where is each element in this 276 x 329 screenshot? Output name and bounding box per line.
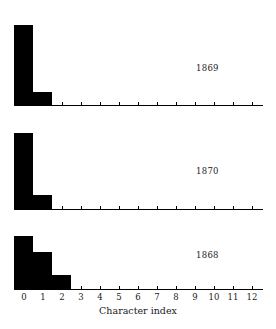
x-axis-tick [24,102,25,106]
histogram-figure: 1869 1870 1868 0123456789101112 Characte… [0,0,276,329]
x-axis-tick [43,102,44,106]
x-axis-tick [214,102,215,106]
x-axis-tick-label: 1 [40,292,45,302]
x-axis-title: Character index [0,305,276,316]
panel-year-label-1870: 1870 [196,166,219,176]
plot-area-1868 [0,214,276,290]
x-axis-tick [24,206,25,210]
bar [14,25,33,105]
bar [14,236,33,289]
panel-year-label-1868: 1868 [196,250,219,260]
x-axis-tick [176,286,177,290]
x-axis-tick [62,286,63,290]
x-axis-tick [157,206,158,210]
x-axis-tick [138,286,139,290]
x-axis-tick [100,286,101,290]
x-axis-tick-label: 9 [192,292,197,302]
x-axis-tick [176,206,177,210]
x-axis-tick [43,206,44,210]
x-axis-tick [252,102,253,106]
x-axis-tick [157,286,158,290]
x-axis-tick [252,206,253,210]
x-axis-tick-label: 10 [209,292,220,302]
x-axis-tick [119,206,120,210]
x-axis-tick [81,102,82,106]
x-axis-tick [233,206,234,210]
x-axis-tick [252,286,253,290]
x-axis-tick-labels: 0123456789101112 [0,292,276,306]
x-axis-tick [157,102,158,106]
x-axis-tick [62,102,63,106]
panel-year-label-1869: 1869 [196,63,219,73]
x-axis-tick [24,286,25,290]
x-axis-tick-label: 6 [135,292,140,302]
x-axis-tick-label: 0 [21,292,26,302]
x-axis-tick [81,206,82,210]
x-axis-tick [138,102,139,106]
x-axis-tick [81,286,82,290]
x-axis-tick [138,206,139,210]
bar [14,133,33,209]
plot-area-1869 [0,0,276,110]
x-axis-tick [195,206,196,210]
x-axis-tick [119,286,120,290]
x-axis-tick-label: 5 [116,292,121,302]
bar [33,252,52,289]
x-axis-tick-label: 7 [154,292,159,302]
plot-area-1870 [0,110,276,214]
x-axis-tick [214,206,215,210]
x-axis-tick [233,102,234,106]
x-axis-tick [176,102,177,106]
x-axis-tick-label: 12 [247,292,258,302]
x-axis-tick-label: 2 [59,292,64,302]
x-axis-tick [100,102,101,106]
x-axis-tick [195,286,196,290]
x-axis-tick-label: 8 [173,292,178,302]
panel-1868: 1868 [0,214,276,290]
x-axis-tick-label: 11 [228,292,239,302]
x-axis-tick-label: 4 [97,292,102,302]
x-axis-tick [119,102,120,106]
x-axis-tick [43,286,44,290]
x-axis-tick [214,286,215,290]
x-axis-tick [195,102,196,106]
panel-1869: 1869 [0,0,276,110]
x-axis-tick [100,206,101,210]
x-axis-tick [233,286,234,290]
panel-1870: 1870 [0,110,276,214]
x-axis-tick-label: 3 [78,292,83,302]
x-axis-tick [62,206,63,210]
